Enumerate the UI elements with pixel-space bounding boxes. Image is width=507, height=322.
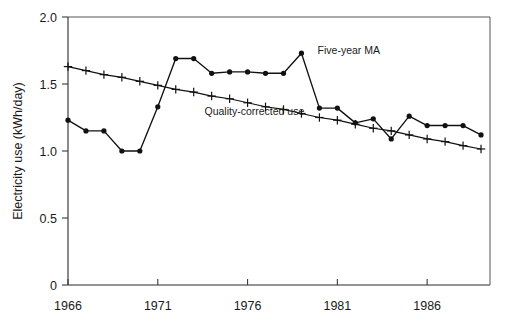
y-tick-label: 1.0 [40,145,57,159]
chart-figure: 00.51.01.52.0 19661971197619811986 Elect… [0,0,507,322]
ma-marker [173,56,178,61]
ma-marker [317,106,322,111]
ma-marker [335,106,340,111]
ma-marker [425,123,430,128]
ma-marker [245,69,250,74]
y-tick-label: 2.0 [40,11,57,25]
y-axis-title: Electricity use (kWh/day) [11,82,25,220]
ma-marker [227,69,232,74]
y-axis-ticks: 00.51.01.52.0 [40,11,68,293]
ma-marker [263,71,268,76]
y-tick-label: 1.5 [40,78,57,92]
ma-marker [371,116,376,121]
ma-marker [191,56,196,61]
quality-corrected-use-label: Quality-corrected use [204,105,304,117]
ma-marker [281,71,286,76]
ma-marker [407,114,412,119]
electricity-use-line-chart: 00.51.01.52.0 19661971197619811986 Elect… [0,0,507,322]
y-tick-label: 0 [50,279,57,293]
x-tick-label: 1986 [413,299,441,313]
x-axis-ticks: 19661971197619811986 [54,279,441,313]
x-tick-label: 1981 [323,299,351,313]
series-annotations: Five-year MAQuality-corrected use [204,44,380,118]
ma-marker [353,120,358,125]
ma-marker [443,123,448,128]
five-year-ma-label: Five-year MA [318,44,380,56]
x-tick-label: 1971 [144,299,172,313]
y-tick-label: 0.5 [40,212,57,226]
ma-marker [155,104,160,109]
ma-marker [101,128,106,133]
ma-marker [119,148,124,153]
ma-marker [137,148,142,153]
ma-marker [65,118,70,123]
ma-marker [209,71,214,76]
ma-marker [389,136,394,141]
ma-marker [83,128,88,133]
five-year-ma-line [68,53,481,151]
x-tick-label: 1976 [234,299,262,313]
x-tick-label: 1966 [54,299,82,313]
ma-marker [460,123,465,128]
ma-marker [478,132,483,137]
ma-marker [299,51,304,56]
